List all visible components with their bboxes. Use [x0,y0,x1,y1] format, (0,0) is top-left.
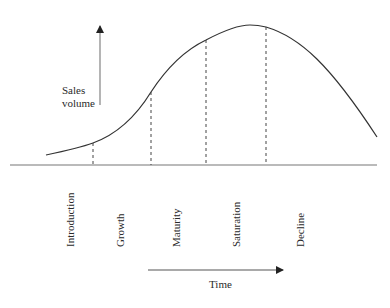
stage-label-growth: Growth [114,213,126,247]
x-axis-label-time: Time [209,278,232,290]
life-cycle-curve [46,25,377,155]
diagram-canvas [0,0,390,308]
y-axis-label-line1: Sales [62,84,95,97]
stage-label-maturity: Maturity [170,209,182,248]
stage-label-introduction: Introduction [64,193,76,247]
y-axis-label: Sales volume [62,84,95,110]
y-axis-label-line2: volume [62,97,95,110]
product-life-cycle-diagram: Sales volume Introduction Growth Maturit… [0,0,390,308]
stage-label-saturation: Saturation [230,202,242,247]
stage-label-decline: Decline [294,213,306,247]
